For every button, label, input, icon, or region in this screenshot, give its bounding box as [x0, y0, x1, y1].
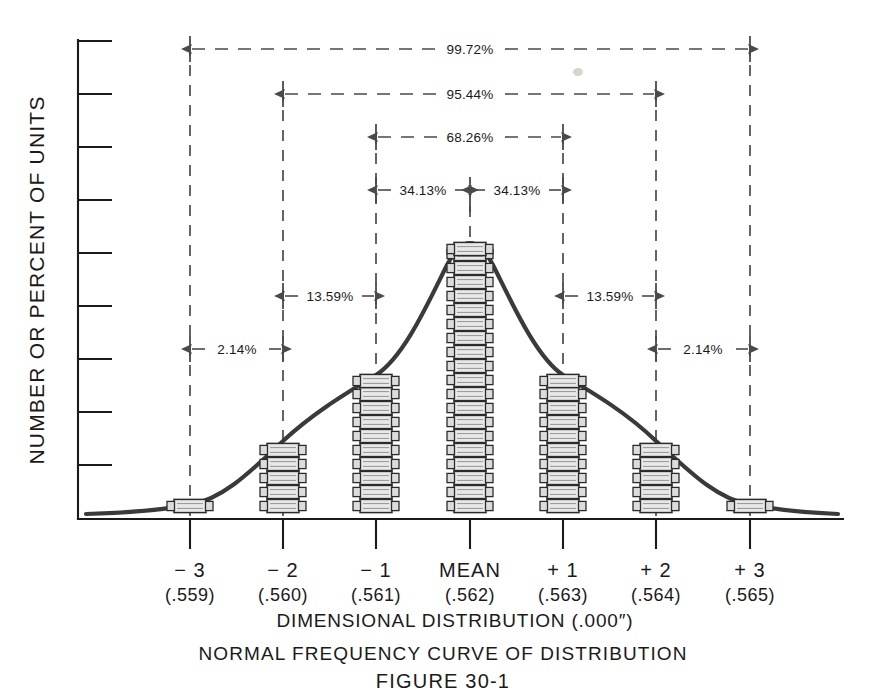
part-stack-plus3	[727, 499, 773, 512]
x-tick-label-minus1: − 1	[360, 559, 391, 581]
x-tick-label-mean: MEAN	[439, 559, 501, 581]
x-tick-sublabel-minus1: (.561)	[351, 585, 401, 605]
x-tick-sublabel-plus1: (.563)	[538, 585, 588, 605]
dimension-label-13-59-right: 13.59%	[587, 289, 634, 304]
y-axis: NUMBER OR PERCENT OF UNITS	[25, 40, 112, 519]
dimension-34-13-right: 34.13%	[472, 177, 563, 203]
part-stack-mean	[447, 242, 493, 512]
x-tick-sublabel-plus3: (.565)	[725, 585, 775, 605]
x-axis-title: DIMENSIONAL DISTRIBUTION (.000″)	[277, 610, 634, 631]
x-axis-ticks	[190, 519, 750, 549]
dimension-2-14-left: 2.14%	[190, 336, 283, 362]
x-axis	[78, 519, 843, 549]
x-tick-sublabel-minus3: (.559)	[165, 585, 215, 605]
dimension-13-59-left: 13.59%	[283, 283, 376, 309]
dimension-95-44: 95.44%	[283, 81, 656, 107]
dimension-label-34-13-left: 34.13%	[400, 183, 447, 198]
dimension-label-95-44: 95.44%	[447, 87, 494, 102]
part-stack-plus1	[540, 374, 586, 512]
dimension-13-59-right: 13.59%	[563, 283, 656, 309]
x-tick-sublabel-mean: (.562)	[445, 585, 495, 605]
part-stack-minus2	[260, 443, 306, 512]
distribution-chart-svg: NUMBER OR PERCENT OF UNITS	[0, 0, 882, 693]
x-tick-label-plus2: + 2	[640, 559, 671, 581]
x-tick-sublabel-minus2: (.560)	[258, 585, 308, 605]
scan-artifact-speck	[573, 68, 583, 76]
dimension-label-68-26: 68.26%	[447, 130, 494, 145]
part-stack-minus1	[353, 374, 399, 512]
x-tick-label-plus3: + 3	[734, 559, 765, 581]
x-tick-sublabel-plus2: (.564)	[631, 585, 681, 605]
x-axis-tick-labels: − 3 (.559) − 2 (.560) − 1 (.561) MEAN (.…	[165, 559, 775, 605]
dimension-68-26: 68.26%	[376, 124, 563, 150]
dimension-label-2-14-right: 2.14%	[683, 342, 722, 357]
x-tick-label-minus3: − 3	[174, 559, 205, 581]
y-axis-ticks	[78, 41, 112, 465]
dimension-2-14-right: 2.14%	[656, 336, 750, 362]
x-tick-label-minus2: − 2	[267, 559, 298, 581]
figure-normal-distribution: NUMBER OR PERCENT OF UNITS	[0, 0, 882, 693]
dimension-label-99-72: 99.72%	[447, 42, 494, 57]
dimension-label-2-14-left: 2.14%	[217, 342, 256, 357]
part-stack-minus3	[167, 499, 213, 512]
dimension-label-34-13-right: 34.13%	[494, 183, 541, 198]
figure-caption: FIGURE 30-1	[376, 670, 510, 692]
figure-subtitle: NORMAL FREQUENCY CURVE OF DISTRIBUTION	[198, 643, 687, 664]
dimension-99-72: 99.72%	[190, 36, 750, 62]
y-axis-title: NUMBER OR PERCENT OF UNITS	[25, 95, 48, 464]
x-tick-label-plus1: + 1	[547, 559, 578, 581]
dimension-label-13-59-left: 13.59%	[307, 289, 354, 304]
part-stack-plus2	[633, 443, 679, 512]
dimension-34-13-left: 34.13%	[376, 177, 470, 212]
